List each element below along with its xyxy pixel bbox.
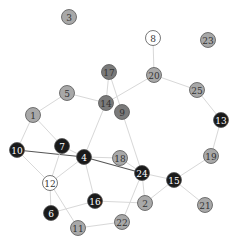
node-21: 21 <box>198 198 213 213</box>
node-9: 9 <box>115 105 130 120</box>
node-label: 5 <box>64 89 70 99</box>
node-label: 3 <box>66 13 72 23</box>
node-7: 7 <box>55 139 70 154</box>
edge-14-4 <box>84 103 106 157</box>
edge-12-11 <box>50 183 78 228</box>
node-label: 4 <box>81 153 87 163</box>
edge-10-4 <box>17 150 84 157</box>
node-1: 1 <box>26 108 41 123</box>
node-label: 6 <box>48 209 54 219</box>
node-label: 2 <box>142 199 148 209</box>
node-6: 6 <box>44 206 59 221</box>
node-4: 4 <box>77 150 92 165</box>
node-18: 18 <box>113 151 128 166</box>
node-19: 19 <box>204 149 219 164</box>
node-14: 14 <box>99 96 114 111</box>
node-16: 16 <box>88 194 103 209</box>
node-label: 15 <box>168 176 180 186</box>
node-label: 21 <box>199 201 210 211</box>
node-label: 10 <box>11 146 23 156</box>
node-label: 12 <box>44 179 55 189</box>
node-17: 17 <box>102 65 117 80</box>
node-label: 9 <box>119 108 125 118</box>
node-8: 8 <box>146 31 161 46</box>
node-label: 19 <box>205 152 217 162</box>
node-23: 23 <box>201 33 216 48</box>
node-label: 20 <box>148 71 160 81</box>
node-20: 20 <box>147 68 162 83</box>
node-11: 11 <box>71 221 86 236</box>
node-22: 22 <box>115 215 130 230</box>
node-3: 3 <box>62 10 77 25</box>
node-24: 24 <box>135 166 150 181</box>
node-label: 1 <box>30 111 36 121</box>
node-label: 22 <box>116 218 127 228</box>
node-label: 25 <box>191 86 203 96</box>
network-graph: 1234567891011121314151617181920212223242… <box>0 0 236 246</box>
node-label: 14 <box>100 99 112 109</box>
node-label: 8 <box>150 34 156 44</box>
node-label: 18 <box>114 154 126 164</box>
node-15: 15 <box>167 173 182 188</box>
edge-20-14 <box>106 75 154 103</box>
node-label: 23 <box>202 36 214 46</box>
node-2: 2 <box>138 196 153 211</box>
node-label: 13 <box>215 116 227 126</box>
node-label: 17 <box>103 68 115 78</box>
node-12: 12 <box>43 176 58 191</box>
edge-24-22 <box>122 173 142 222</box>
graph-edges <box>17 38 221 228</box>
node-label: 16 <box>89 197 101 207</box>
node-25: 25 <box>190 83 205 98</box>
node-13: 13 <box>214 113 229 128</box>
node-label: 7 <box>59 142 65 152</box>
node-10: 10 <box>10 143 25 158</box>
node-label: 24 <box>136 169 148 179</box>
node-5: 5 <box>60 86 75 101</box>
node-label: 11 <box>72 224 83 234</box>
